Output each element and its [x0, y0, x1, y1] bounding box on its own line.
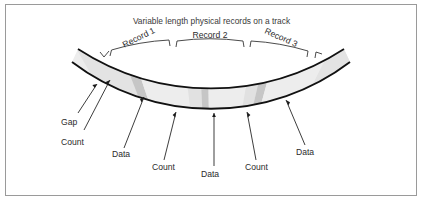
callout-count-left: Count — [61, 137, 85, 147]
leader-data-left — [124, 97, 144, 148]
leader-data-right — [286, 100, 305, 145]
callout-data-left: Data — [112, 149, 130, 159]
record-label-1: Record 1 — [121, 25, 157, 49]
track-diagram: Variable length physical records on a tr… — [0, 0, 423, 202]
leader-count-right — [247, 112, 256, 160]
leader-gap — [78, 84, 97, 113]
bracket-record-3 — [250, 41, 308, 57]
callout-data-right: Data — [296, 147, 314, 157]
callout-count-right: Count — [245, 162, 269, 172]
segment-gap — [212, 22, 373, 202]
record-label-3: Record 3 — [263, 26, 299, 49]
gap-bracket-mark-right — [315, 52, 322, 58]
bracket-record-1 — [110, 40, 170, 56]
callout-gap: Gap — [61, 117, 77, 127]
figure-container: Variable length physical records on a tr… — [0, 0, 423, 202]
leader-count-left — [84, 80, 110, 130]
gap-bracket-mark — [100, 51, 109, 57]
callout-count-center: Count — [152, 162, 176, 172]
callout-data-center: Data — [201, 169, 219, 179]
record-label-2: Record 2 — [193, 30, 228, 40]
leader-count-center — [164, 112, 176, 160]
